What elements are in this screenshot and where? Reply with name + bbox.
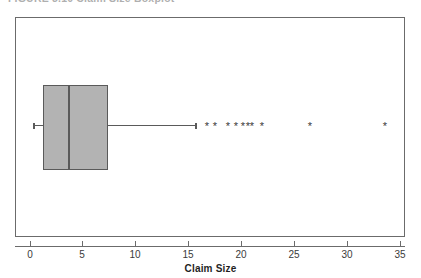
x-axis-tick-label: 25 [288,249,299,260]
x-axis-tick [82,241,83,247]
x-axis-tick [30,241,31,247]
chart-title: FIGURE 3.10 Claim Size Boxplot [8,0,268,5]
x-axis-title: Claim Size [0,263,421,274]
x-axis-tick [188,241,189,247]
x-axis-tick-label: 5 [79,249,85,260]
x-axis-tick [347,241,348,247]
plot-frame [15,17,405,237]
x-axis-tick [241,241,242,247]
x-axis-tick-label: 15 [182,249,193,260]
x-axis-tick-label: 30 [341,249,352,260]
x-axis-tick-label: 0 [27,249,33,260]
x-axis-tick-label: 20 [235,249,246,260]
x-axis-tick-label: 10 [129,249,140,260]
x-axis-tick [294,241,295,247]
x-axis-tick [400,241,401,247]
x-axis-tick-label: 35 [394,249,405,260]
x-axis-tick [135,241,136,247]
